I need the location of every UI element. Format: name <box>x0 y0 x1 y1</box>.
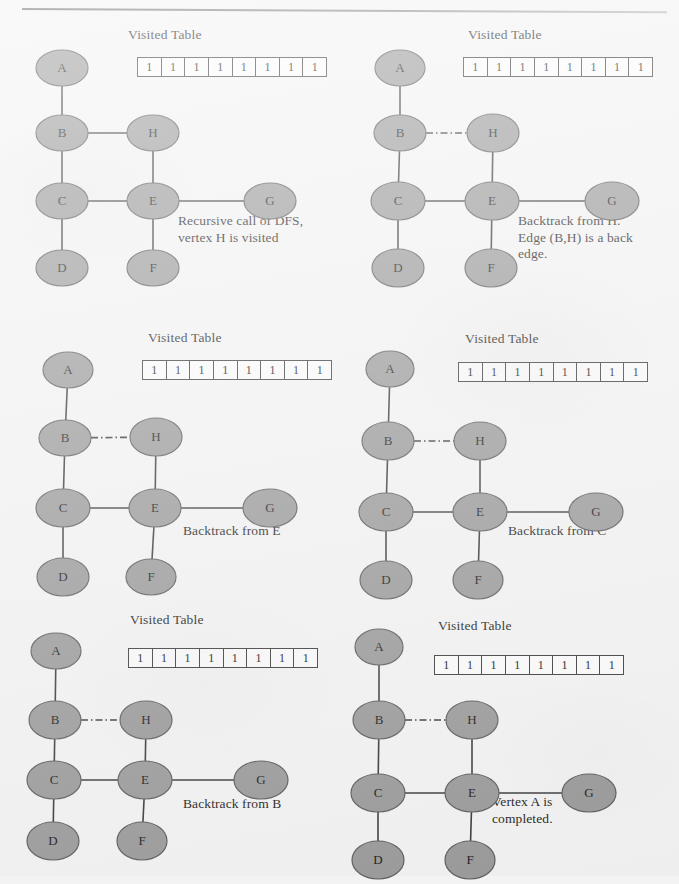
vertex-label: F <box>149 260 156 275</box>
vertex-label: G <box>584 785 593 800</box>
graph-vertex: F <box>445 841 495 879</box>
graph-vertex: B <box>29 701 81 739</box>
graph-vertex: G <box>243 489 297 527</box>
vertex-label: F <box>474 572 481 587</box>
graph-vertex: B <box>353 701 405 739</box>
graph-vertex: E <box>129 489 181 527</box>
graph-vertex: G <box>562 774 616 812</box>
graph-edge <box>471 812 472 841</box>
vertex-label: F <box>487 260 494 275</box>
graph-vertex: D <box>27 822 79 860</box>
dfs-step-panel: ABCDHEFG <box>350 320 670 610</box>
vertex-label: H <box>148 125 157 140</box>
graph-vertex: H <box>467 114 519 152</box>
graph-edge <box>143 799 144 822</box>
graph-edge <box>399 151 400 182</box>
vertex-label: F <box>138 833 145 848</box>
graph-edge <box>387 460 388 493</box>
graph-vertex: F <box>117 822 167 860</box>
vertex-label: B <box>51 712 60 727</box>
vertex-label: C <box>59 500 68 515</box>
graph-vertex: D <box>37 558 89 596</box>
vertex-label: C <box>394 193 403 208</box>
graph-vertex: F <box>465 249 517 287</box>
graph-edge <box>64 456 65 489</box>
graph-vertex: H <box>130 418 182 456</box>
graph-vertex: F <box>126 559 176 595</box>
graph-canvas: ABCDHEFG <box>350 320 670 610</box>
graph-vertex: E <box>453 493 507 531</box>
dfs-step-panel: ABCDHEFG <box>350 20 670 310</box>
vertex-label: G <box>607 193 616 208</box>
graph-vertex: D <box>372 249 424 287</box>
vertex-label: E <box>468 785 476 800</box>
graph-vertex: E <box>118 761 172 799</box>
vertex-label: E <box>151 500 159 515</box>
graph-canvas: ABCDHEFG <box>10 610 330 884</box>
vertex-label: D <box>373 852 382 867</box>
graph-vertex: B <box>39 420 91 456</box>
vertex-label: G <box>265 500 274 515</box>
vertex-label: A <box>57 60 67 75</box>
vertex-label: D <box>58 569 67 584</box>
graph-vertex: A <box>36 50 88 86</box>
graph-vertex: E <box>465 182 519 220</box>
vertex-label: C <box>374 785 383 800</box>
graph-vertex: B <box>374 115 426 151</box>
graph-vertex: G <box>585 182 639 220</box>
vertex-label: H <box>151 429 160 444</box>
dfs-step-panel: ABCDHEFG <box>10 20 330 310</box>
dfs-step-panel: ABCDHEFG <box>350 610 670 884</box>
vertex-label: H <box>467 712 476 727</box>
graph-vertex: C <box>36 183 88 219</box>
graph-vertex: D <box>352 841 404 879</box>
graph-vertex: A <box>355 629 403 665</box>
vertex-label: E <box>488 193 496 208</box>
graph-vertex: B <box>362 422 414 460</box>
vertex-label: A <box>63 362 73 377</box>
vertex-label: B <box>384 433 393 448</box>
vertex-label: D <box>393 260 402 275</box>
graph-vertex: C <box>27 761 81 799</box>
graph-vertex: A <box>375 50 425 86</box>
vertex-label: B <box>61 430 70 445</box>
graph-vertex: F <box>127 250 179 286</box>
vertex-label: D <box>57 260 66 275</box>
vertex-label: H <box>141 712 150 727</box>
graph-edge <box>66 388 67 420</box>
graph-vertex: A <box>366 351 414 387</box>
graph-vertex: D <box>360 561 412 599</box>
vertex-label: E <box>149 193 157 208</box>
vertex-label: G <box>591 504 600 519</box>
vertex-label: G <box>256 772 265 787</box>
vertex-label: B <box>396 125 405 140</box>
vertex-label: A <box>374 639 384 654</box>
vertex-label: E <box>476 504 484 519</box>
graph-vertex: D <box>36 250 88 286</box>
vertex-label: A <box>51 643 61 658</box>
graph-vertex: C <box>351 774 405 812</box>
vertex-label: B <box>375 712 384 727</box>
graph-vertex: E <box>127 183 179 219</box>
dfs-step-panel: ABCDHEFG <box>10 610 330 884</box>
graph-vertex: B <box>36 115 88 151</box>
graph-vertex: H <box>446 701 498 739</box>
graph-vertex: H <box>454 422 506 460</box>
vertex-label: C <box>58 193 67 208</box>
vertex-label: F <box>147 569 154 584</box>
graph-canvas: ABCDHEFG <box>350 20 670 310</box>
graph-vertex: G <box>569 493 623 531</box>
graph-vertex: F <box>453 561 503 599</box>
vertex-label: H <box>488 125 497 140</box>
vertex-label: B <box>58 125 67 140</box>
graph-vertex: C <box>371 182 425 220</box>
vertex-label: A <box>385 361 395 376</box>
vertex-label: D <box>381 572 390 587</box>
graph-vertex: C <box>359 493 413 531</box>
graph-canvas: ABCDHEFG <box>350 610 670 884</box>
dfs-step-panel: ABCDHEFG <box>10 320 330 610</box>
graph-vertex: C <box>36 489 90 527</box>
vertex-label: C <box>50 772 59 787</box>
graph-canvas: ABCDHEFG <box>10 320 330 610</box>
graph-vertex: H <box>120 701 172 739</box>
